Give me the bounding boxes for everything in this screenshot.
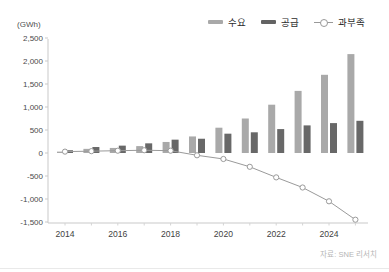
bar-수요-2024: [321, 75, 328, 153]
bar-수요-2020: [215, 128, 222, 153]
marker-과부족-2019: [194, 153, 199, 158]
marker-과부족-2023: [300, 185, 305, 190]
bar-공급-2024: [330, 123, 337, 153]
bar-수요-2023: [295, 91, 302, 153]
marker-과부족-2015: [89, 149, 94, 154]
bar-공급-2020: [224, 134, 231, 153]
marker-과부족-2018: [168, 148, 173, 153]
bottom-divider: [0, 268, 389, 269]
marker-과부족-2025: [353, 217, 358, 222]
y-tick-label: -500: [27, 172, 44, 181]
bar-공급-2021: [251, 132, 258, 153]
y-tick-label: 2,000: [23, 57, 44, 66]
bar-공급-2025: [356, 121, 363, 153]
y-tick-label: 1,500: [23, 80, 44, 89]
source-credit: 자료: SNE 리서치: [320, 248, 377, 259]
bar-수요-2019: [189, 136, 196, 153]
bar-공급-2022: [277, 129, 284, 153]
x-tick-label: 2020: [214, 229, 233, 239]
chart-canvas: 2,5002,0001,5001,0005000-500-1,000-1,500…: [0, 0, 389, 272]
marker-과부족-2024: [326, 199, 331, 204]
y-tick-label: -1,000: [20, 195, 43, 204]
y-tick-label: -1,500: [20, 218, 43, 227]
marker-과부족-2017: [142, 148, 147, 153]
y-tick-label: 1,000: [23, 103, 44, 112]
x-tick-label: 2018: [161, 229, 180, 239]
y-tick-label: 2,500: [23, 34, 44, 43]
x-tick-label: 2024: [319, 229, 338, 239]
y-tick-label: 500: [30, 126, 44, 135]
x-tick-label: 2014: [55, 229, 74, 239]
bar-공급-2023: [304, 125, 311, 153]
marker-과부족-2016: [115, 148, 120, 153]
chart-area: 2,5002,0001,5001,0005000-500-1,000-1,500…: [0, 0, 389, 272]
bar-수요-2025: [347, 54, 354, 153]
bar-수요-2022: [268, 105, 275, 153]
marker-과부족-2014: [62, 149, 67, 154]
y-tick-label: 0: [39, 149, 44, 158]
bar-공급-2019: [198, 139, 205, 153]
marker-과부족-2020: [221, 156, 226, 161]
line-series-과부족: [65, 150, 355, 219]
marker-과부족-2021: [247, 164, 252, 169]
bar-수요-2021: [242, 119, 249, 154]
marker-과부족-2022: [274, 175, 279, 180]
x-tick-label: 2016: [108, 229, 127, 239]
x-tick-label: 2022: [267, 229, 286, 239]
